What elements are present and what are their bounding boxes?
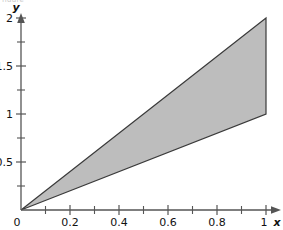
- x-tick-label-1: 1: [261, 216, 268, 229]
- x-tick-label-0point6: 0.6: [159, 216, 177, 229]
- x-axis-arrowhead: [271, 206, 281, 214]
- y-tick-label-1point5: 1.5: [0, 60, 13, 73]
- figure-root: figure: [0, 0, 283, 230]
- region-plot: 2 1.5 1 0.5 0 0.2 0.4 0.6 0.8 1 y x: [0, 0, 283, 230]
- origin-tick-label-0: 0: [14, 216, 21, 229]
- y-axis-label: y: [12, 1, 20, 14]
- x-axis-label: x: [272, 216, 281, 229]
- x-tick-label-0point8: 0.8: [208, 216, 226, 229]
- y-tick-label-0point5: 0.5: [0, 156, 13, 169]
- y-tick-label-1: 1: [6, 108, 13, 121]
- x-tick-label-0point2: 0.2: [61, 216, 79, 229]
- x-tick-label-0point4: 0.4: [110, 216, 128, 229]
- shaded-region-polygon: [21, 18, 266, 210]
